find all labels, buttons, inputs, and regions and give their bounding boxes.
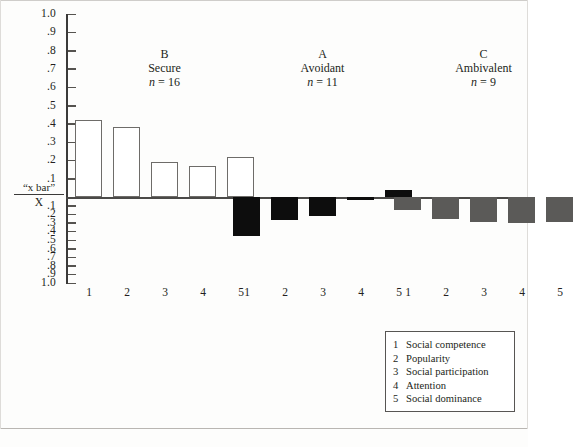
- legend-key: 2: [393, 352, 406, 366]
- bar-index-label: 3: [309, 286, 337, 298]
- y-tick-mark: [68, 283, 76, 285]
- bar-index-label: 3: [151, 286, 179, 298]
- bar-index-label: 2: [113, 286, 141, 298]
- frame-bottom-border: [0, 428, 528, 429]
- frame-left-border: [0, 0, 1, 429]
- group-sample-size: n = 9: [409, 75, 559, 90]
- y-tick-mark: [68, 50, 76, 52]
- bar-A-4: [347, 197, 374, 200]
- legend-label: Social dominance: [406, 392, 510, 406]
- legend-item-1: 1Social competence: [393, 338, 510, 352]
- group-sample-size: n = 16: [90, 75, 240, 90]
- legend-item-5: 5Social dominance: [393, 392, 510, 406]
- bar-index-label: 4: [347, 286, 375, 298]
- y-tick-mark: [68, 205, 76, 207]
- bar-B-3: [151, 162, 178, 197]
- group-name: Ambivalent: [409, 61, 559, 75]
- bar-C-1: [394, 197, 421, 210]
- y-tick-label: .7: [16, 63, 56, 75]
- legend-box: 1Social competence2Popularity3Social par…: [385, 331, 515, 412]
- group-header-ambivalent: CAmbivalentn = 9: [409, 47, 559, 90]
- bar-B-4: [189, 166, 216, 197]
- bar-index-label: 3: [470, 286, 498, 298]
- bar-B-5: [227, 157, 254, 197]
- y-tick-mark: [68, 68, 76, 70]
- bar-C-5: [546, 197, 573, 222]
- group-sample-size: n = 11: [248, 75, 398, 90]
- bar-A-1: [233, 197, 260, 236]
- y-tick-mark: [68, 105, 76, 107]
- y-tick-mark: [68, 240, 76, 242]
- bar-index-label: 2: [271, 286, 299, 298]
- group-header-avoidant: AAvoidantn = 11: [248, 47, 398, 90]
- y-axis-zero-label-numerator: “x bar”: [14, 182, 64, 195]
- group-code: B: [90, 47, 240, 61]
- legend-key: 3: [393, 365, 406, 379]
- y-tick-label: .2: [16, 154, 56, 166]
- group-code: C: [409, 47, 559, 61]
- legend-label: Social competence: [406, 338, 510, 352]
- y-tick-label: .9: [16, 26, 56, 38]
- legend-key: 1: [393, 338, 406, 352]
- legend-item-3: 3Social participation: [393, 365, 510, 379]
- y-tick-mark: [68, 265, 76, 267]
- group-header-secure: BSecuren = 16: [90, 47, 240, 90]
- bar-A-2: [271, 197, 298, 220]
- bar-index-label: 4: [508, 286, 536, 298]
- y-tick-mark: [68, 274, 76, 276]
- y-tick-label: 1.0: [16, 8, 56, 20]
- bar-index-label: 1: [75, 286, 103, 298]
- y-tick-mark: [68, 257, 76, 259]
- y-tick-mark: [68, 87, 76, 89]
- y-tick-label: .5: [16, 100, 56, 112]
- frame-top-border: [0, 0, 528, 1]
- y-tick-label: .4: [16, 118, 56, 130]
- bar-index-label: 5: [546, 286, 574, 298]
- y-tick-label: .3: [16, 136, 56, 148]
- bar-B-1: [75, 120, 102, 197]
- legend-label: Attention: [406, 379, 510, 393]
- bar-index-label: 1: [394, 286, 422, 298]
- group-name: Avoidant: [248, 61, 398, 75]
- legend-item-2: 2Popularity: [393, 352, 510, 366]
- bar-index-label: 1: [233, 286, 261, 298]
- y-tick-mark: [68, 214, 76, 216]
- bar-B-2: [113, 127, 140, 197]
- bar-index-label: 2: [432, 286, 460, 298]
- y-tick-label: .8: [16, 45, 56, 57]
- y-axis-line: [66, 14, 68, 284]
- bar-C-4: [508, 197, 535, 223]
- group-name: Secure: [90, 61, 240, 75]
- y-tick-label: 1.0: [16, 277, 56, 289]
- y-tick-mark: [68, 14, 76, 16]
- y-axis-zero-label: “x bar” X: [14, 182, 64, 209]
- group-code: A: [248, 47, 398, 61]
- legend-label: Social participation: [406, 365, 510, 379]
- bar-A-5: [385, 190, 412, 197]
- y-tick-mark: [68, 222, 76, 224]
- legend-label: Popularity: [406, 352, 510, 366]
- bar-C-3: [470, 197, 497, 222]
- legend-key: 4: [393, 379, 406, 393]
- y-tick-label: .6: [16, 81, 56, 93]
- y-tick-mark: [68, 248, 76, 250]
- bar-A-3: [309, 197, 336, 216]
- y-tick-mark: [68, 32, 76, 34]
- legend-item-4: 4Attention: [393, 379, 510, 393]
- legend-rows: 1Social competence2Popularity3Social par…: [393, 338, 510, 406]
- legend-key: 5: [393, 392, 406, 406]
- bar-C-2: [432, 197, 459, 219]
- y-axis-zero-label-denominator: X: [14, 195, 64, 209]
- y-tick-mark: [68, 231, 76, 233]
- bar-index-label: 4: [189, 286, 217, 298]
